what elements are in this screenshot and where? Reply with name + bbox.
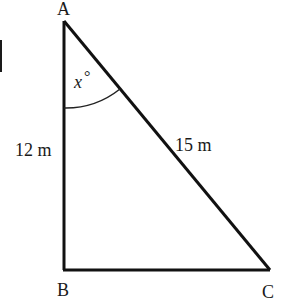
vertex-label-c: C [262,282,274,302]
side-label-ab: 12 m [15,140,52,160]
vertex-label-a: A [57,0,70,19]
vertex-label-b: B [57,280,69,300]
side-ac [64,21,270,270]
angle-label-degree: ° [84,68,90,85]
side-label-ac: 15 m [175,135,212,155]
edge-mark [0,40,2,72]
angle-arc [64,89,120,108]
angle-label-var: x [73,72,82,92]
triangle-diagram: A B C 12 m 15 m x ° [0,0,292,305]
